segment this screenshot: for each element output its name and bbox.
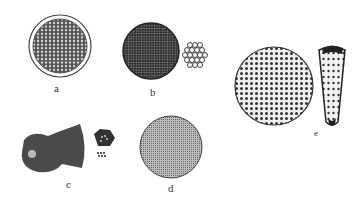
panel-a-label: a [54,82,59,94]
panel-c-label: c [66,178,71,190]
panel-c-figure [18,124,88,174]
panel-d-figure [139,115,203,179]
panel-e-cone [316,44,348,128]
panel-d-label: d [168,182,174,194]
panel-b-figure [122,22,182,82]
panel-e-label: e [314,128,318,138]
panel-b-label: b [150,86,156,98]
panel-e-circle [234,46,314,126]
panel-b-detail [182,40,208,72]
panel-c-detail [92,128,116,164]
panel-a-figure [28,14,92,78]
